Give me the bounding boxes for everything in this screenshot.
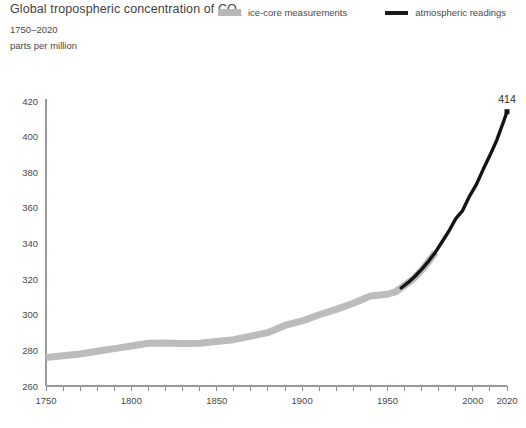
co2-concentration-chart: Global tropospheric concentration of CO2… (0, 0, 526, 428)
y-tick-label: 300 (22, 309, 38, 320)
x-tick-label: 1850 (206, 395, 227, 406)
x-tick-label: 1800 (121, 395, 142, 406)
y-tick-label: 420 (22, 96, 38, 107)
x-tick-label: 2000 (462, 395, 483, 406)
x-tick-label: 1750 (35, 395, 56, 406)
y-axis-tick-labels: 260280300320340360380400420 (22, 96, 38, 392)
y-tick-label: 360 (22, 202, 38, 213)
x-axis-tick-labels: 1750180018501900195020002020 (35, 395, 517, 406)
series-line-atmospheric (401, 112, 507, 288)
y-tick-label: 340 (22, 238, 38, 249)
y-tick-label: 380 (22, 167, 38, 178)
x-tick-label: 1950 (377, 395, 398, 406)
y-tick-label: 320 (22, 274, 38, 285)
endpoint-value-label: 414 (498, 93, 516, 105)
y-tick-label: 280 (22, 345, 38, 356)
y-tick-label: 400 (22, 131, 38, 142)
x-tick-label: 2020 (496, 395, 517, 406)
plot-area: 260280300320340360380400420 175018001850… (0, 0, 526, 428)
y-tick-label: 260 (22, 381, 38, 392)
endpoint-marker (505, 109, 510, 114)
chart-canvas: 260280300320340360380400420 175018001850… (0, 0, 526, 428)
series-line-ice-core (46, 252, 435, 357)
x-tick-label: 1900 (292, 395, 313, 406)
x-axis-tick-marks (46, 386, 507, 391)
